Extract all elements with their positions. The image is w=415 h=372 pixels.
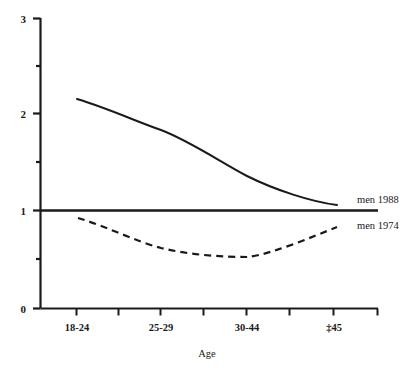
- chart-canvas: 3 2 1 0 18-24 25-29 30-44 ‡45 Age men 19…: [0, 0, 415, 372]
- y-tick-label-1: 1: [21, 205, 27, 217]
- chart-background: [0, 0, 415, 372]
- y-tick-label-2: 2: [21, 108, 27, 120]
- legend-label-men-1974: men 1974: [357, 220, 399, 231]
- x-tick-label-18-24: 18-24: [65, 322, 90, 333]
- x-axis-title: Age: [198, 348, 216, 359]
- line-chart: 3 2 1 0 18-24 25-29 30-44 ‡45 Age men 19…: [0, 0, 415, 372]
- legend-label-men-1988: men 1988: [357, 194, 399, 205]
- x-tick-label-30-44: 30-44: [235, 322, 260, 333]
- x-tick-label-45plus: ‡45: [326, 322, 342, 333]
- x-tick-label-25-29: 25-29: [149, 322, 174, 333]
- y-tick-label-0: 0: [21, 303, 27, 315]
- y-tick-label-3: 3: [21, 13, 27, 25]
